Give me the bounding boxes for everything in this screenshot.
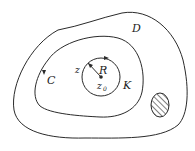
label-z: z [74, 65, 80, 75]
label-R: R [98, 64, 107, 77]
label-z0: z [96, 81, 102, 91]
complex-domain-diagram: D C K R z z 0 [0, 0, 195, 151]
hatched-hole [151, 93, 169, 117]
label-z0-subscript: 0 [103, 85, 107, 92]
contour-C-arrow-icon [42, 70, 46, 75]
label-C: C [47, 74, 56, 87]
label-D: D [131, 22, 141, 35]
label-K: K [122, 79, 132, 92]
